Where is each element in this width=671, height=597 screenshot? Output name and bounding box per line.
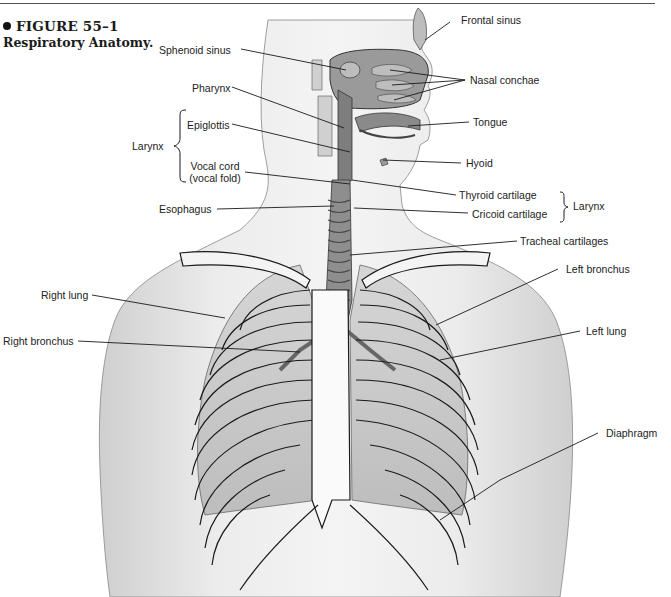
label-diaphragm: Diaphragm [606, 427, 657, 439]
pharynx-shape [338, 90, 352, 190]
label-tongue: Tongue [473, 116, 507, 128]
label-thyroid-cartilage: Thyroid cartilage [459, 189, 537, 201]
label-vocal-cord-line2: (vocal fold) [186, 172, 244, 184]
label-left-bronchus: Left bronchus [566, 263, 630, 275]
label-right-bronchus: Right bronchus [3, 335, 74, 347]
label-nasal-conchae: Nasal conchae [470, 74, 539, 86]
label-hyoid: Hyoid [466, 157, 493, 169]
label-vocal-cord: Vocal cord (vocal fold) [186, 160, 244, 184]
respiratory-anatomy-illustration [0, 0, 671, 597]
label-frontal-sinus: Frontal sinus [461, 14, 521, 26]
label-right-lung: Right lung [41, 289, 88, 301]
sphenoid-sinus-shape [340, 62, 360, 78]
label-tracheal-cartilages: Tracheal cartilages [520, 235, 608, 247]
label-pharynx: Pharynx [192, 82, 231, 94]
label-epiglottis: Epiglottis [187, 119, 230, 131]
label-larynx-left: Larynx [132, 140, 164, 152]
label-left-lung: Left lung [586, 325, 626, 337]
label-larynx-right: Larynx [573, 200, 605, 212]
label-sphenoid-sinus: Sphenoid sinus [159, 44, 231, 56]
label-vocal-cord-line1: Vocal cord [186, 160, 244, 172]
label-cricoid-cartilage: Cricoid cartilage [472, 208, 547, 220]
label-esophagus: Esophagus [159, 203, 212, 215]
